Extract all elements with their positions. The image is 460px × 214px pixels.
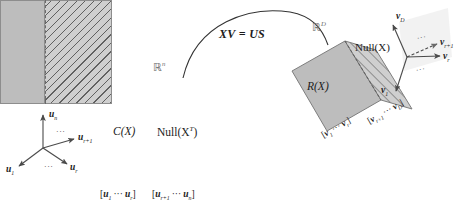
- axis-label-v-r-plus-1: vr+1: [440, 38, 453, 50]
- bracket-close: ]: [133, 189, 136, 199]
- axis-v-1: [396, 57, 407, 91]
- left-basis-columns-label: [u1···ur]: [100, 190, 136, 202]
- axis-label-v-D: vD: [396, 12, 404, 24]
- axis-vector-sub: n: [54, 115, 57, 121]
- right-space-label: ℝD: [312, 21, 326, 33]
- left-null-space-region: [45, 0, 112, 104]
- axis-label-u-r: ur: [70, 163, 78, 175]
- left-basis-nullspace-label: [ur+1···un]: [152, 190, 195, 202]
- axis-v-r: [407, 56, 440, 57]
- axis-label-v-r: vr: [443, 52, 450, 64]
- left-subspace-divider: [45, 0, 46, 104]
- left-column-space-region: [0, 0, 45, 104]
- mapping-arc: [183, 11, 328, 78]
- axis-v-D: [393, 25, 407, 57]
- left-axes-frame: [19, 115, 74, 166]
- axis-vector-sub: r+1: [83, 138, 92, 144]
- left-null-space-close-paren: ): [194, 126, 198, 138]
- axis-label-u-r-plus-1: ur+1: [78, 133, 93, 145]
- basis-ellipsis: ···: [113, 189, 123, 199]
- svd-four-subspaces-diagram: XV = US ℝn C(X) Null(XT) [u1···ur] [ur+1…: [0, 0, 460, 214]
- right-axes-dots-lower: ···: [415, 65, 426, 75]
- basis-ellipsis: ···: [172, 189, 182, 199]
- basis-vector-sub: r+1: [160, 195, 169, 201]
- axis-label-u-n: un: [49, 110, 57, 122]
- axis-vector-sub: 1: [11, 170, 14, 176]
- left-space-exponent: n: [162, 60, 165, 67]
- left-axes-dots-upper: ···: [56, 128, 66, 136]
- left-space-symbol: ℝ: [153, 61, 162, 73]
- left-space-label: ℝn: [153, 61, 165, 73]
- right-row-space-label: R(X): [307, 81, 329, 93]
- left-space-plane: [0, 0, 112, 104]
- mapping-equation: XV = US: [219, 28, 265, 40]
- axis-v-r-plus-1: [407, 44, 437, 57]
- axis-vector-sub: r: [447, 57, 449, 63]
- bracket-close: ]: [191, 189, 194, 199]
- axis-label-v-1: v1: [381, 86, 388, 98]
- right-null-space-label: Null(X): [355, 42, 390, 53]
- left-null-space-text: Null(X: [157, 126, 190, 138]
- right-space-exponent: D: [321, 20, 326, 27]
- left-column-space-label: C(X): [113, 126, 135, 138]
- axis-label-u-1: u1: [6, 165, 14, 177]
- axis-u-1: [19, 148, 43, 166]
- left-column-space-text: C(X): [113, 125, 135, 137]
- axis-vector-sub: D: [400, 17, 404, 23]
- right-basis-rowspace-label: [v1···vr]: [320, 116, 353, 142]
- left-axes-dots-lower: ···: [44, 163, 54, 171]
- right-row-space-text: R(X): [307, 80, 329, 92]
- axis-vector-sub: r: [75, 168, 77, 174]
- left-null-space-label: Null(XT): [157, 126, 197, 138]
- right-basis-nullspace-label: [vr+1···vD]: [366, 98, 406, 128]
- right-axes-dots-upper: ···: [416, 33, 427, 43]
- right-null-space-text: Null(X): [355, 41, 390, 53]
- basis-vector-sub: 1: [108, 195, 111, 201]
- axis-u-r-plus-1: [43, 139, 74, 148]
- axis-vector-sub: r+1: [444, 43, 453, 49]
- right-space-symbol: ℝ: [312, 21, 321, 33]
- axis-vector-sub: 1: [385, 91, 388, 97]
- basis-vector-sub: r+1: [374, 114, 385, 124]
